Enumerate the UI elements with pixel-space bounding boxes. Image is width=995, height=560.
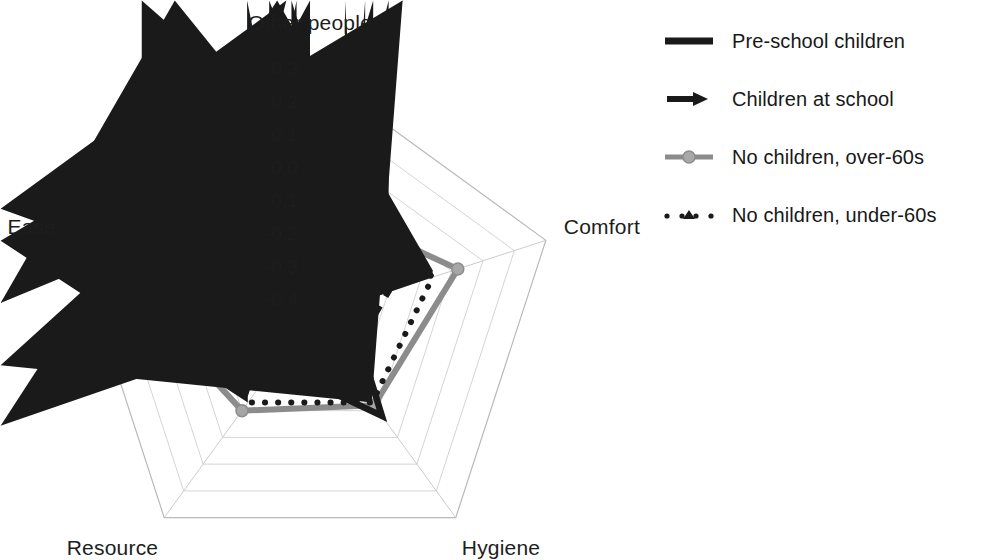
axis-label-other-people: Other people	[248, 11, 372, 35]
data-point-marker	[236, 405, 248, 417]
solid-black-line-icon	[660, 32, 718, 50]
gray-circle-line-icon	[660, 148, 718, 166]
dashed-black-arrow-line-icon	[660, 90, 718, 108]
radar-chart-plot: Other people Comfort Hygiene Resource Ea…	[0, 0, 640, 551]
data-point-marker	[452, 263, 464, 275]
radar-chart-svg	[0, 0, 640, 551]
series-no-children-under-60s	[1, 1, 433, 426]
axis-label-resource: Resource	[67, 536, 158, 560]
axis-label-ease: Ease	[7, 215, 56, 239]
legend-item-pre-school-children[interactable]: Pre-school children	[660, 12, 990, 70]
tick-label-2: 0.1	[272, 124, 298, 146]
tick-label-3: 0.0	[272, 157, 298, 179]
legend-item-no-children-under-60s[interactable]: No children, under-60s	[660, 186, 990, 244]
tick-label-0: 0.3	[272, 58, 298, 80]
legend-label: Children at school	[718, 88, 894, 111]
dotted-black-triangle-line-icon	[660, 206, 718, 224]
tick-label-1: 0.2	[272, 91, 298, 113]
tick-label-7: -0.4	[265, 289, 298, 311]
legend-label: No children, over-60s	[718, 146, 924, 169]
legend-item-children-at-school[interactable]: Children at school	[660, 70, 990, 128]
axis-label-comfort: Comfort	[564, 215, 640, 239]
axis-label-hygiene: Hygiene	[462, 536, 540, 560]
tick-label-6: -0.3	[265, 256, 298, 278]
chart-legend: Pre-school children Children at school N…	[660, 12, 990, 244]
tick-label-4: -0.1	[265, 190, 298, 212]
tick-label-5: -0.2	[265, 223, 298, 245]
legend-label: Pre-school children	[718, 30, 905, 53]
legend-label: No children, under-60s	[718, 204, 937, 227]
legend-item-no-children-over-60s[interactable]: No children, over-60s	[660, 128, 990, 186]
